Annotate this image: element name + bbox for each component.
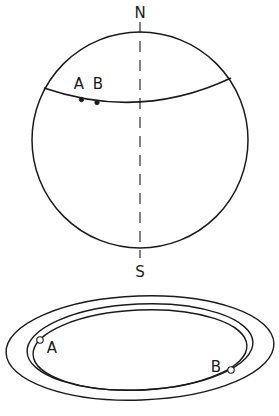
sphere-point-a-marker	[79, 97, 83, 101]
diagram-canvas: N S A B A B	[0, 0, 279, 416]
label-sphere-point-b: B	[93, 75, 103, 93]
figure-root: N S A B A B	[0, 0, 279, 416]
orbit-point-a-marker	[37, 337, 43, 343]
label-orbit-point-a: A	[47, 339, 58, 357]
ellipse-outer	[4, 291, 275, 404]
label-orbit-point-b: B	[211, 358, 221, 376]
label-south-pole: S	[135, 263, 145, 281]
sphere-diagram: N S A B	[32, 4, 248, 281]
sphere-point-b-marker	[95, 100, 99, 104]
orbit-point-b-marker	[228, 367, 234, 373]
label-north-pole: N	[134, 4, 145, 22]
ellipse-middle	[25, 299, 255, 395]
great-circle-arc	[44, 78, 231, 102]
orbit-ellipses-diagram: A B	[4, 291, 275, 404]
label-sphere-point-a: A	[74, 75, 85, 93]
